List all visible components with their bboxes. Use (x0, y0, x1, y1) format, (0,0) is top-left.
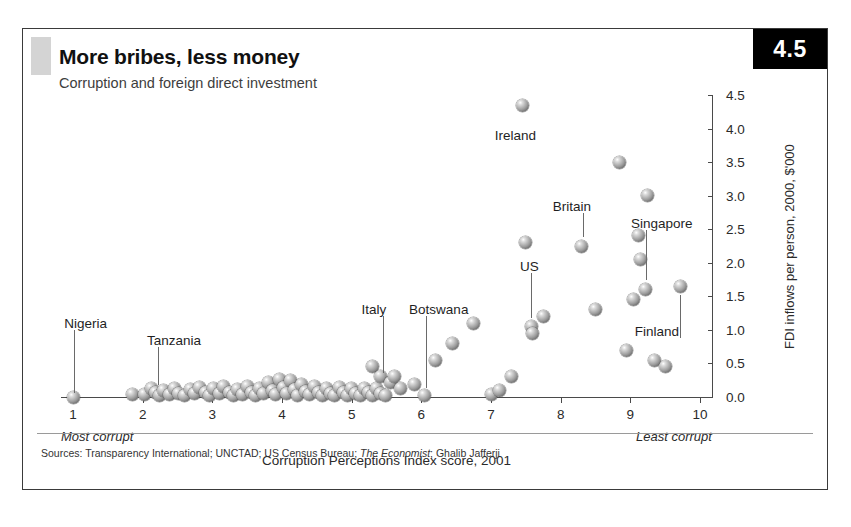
data-point (418, 389, 431, 402)
footer-divider (37, 433, 813, 434)
x-tick-label-8: 8 (557, 407, 565, 422)
sources-prefix: Sources: Transparency International; UNC… (41, 447, 360, 459)
x-tick-9 (630, 398, 631, 403)
annotation-tanzania: Tanzania (147, 333, 201, 348)
y-tick-label-3.5: 3.5 (726, 155, 745, 170)
data-point (379, 389, 392, 402)
y-tick-label-2.0: 2.0 (726, 255, 745, 270)
data-point (659, 360, 672, 373)
annotation-leader-tanzania (158, 347, 159, 385)
y-tick-2.5 (708, 229, 713, 230)
data-point (589, 303, 602, 316)
x-tick-label-2: 2 (139, 407, 147, 422)
annotation-leader-singapore (646, 230, 647, 280)
data-point (526, 327, 539, 340)
annotation-leader-botswana (426, 316, 427, 388)
y-tick-label-3.0: 3.0 (726, 188, 745, 203)
y-tick-3.0 (708, 196, 713, 197)
data-point (408, 378, 421, 391)
y-axis-title: FDI inflows per person, 2000, $'000 (782, 144, 797, 349)
x-tick-label-6: 6 (418, 407, 426, 422)
y-tick-0.5 (708, 363, 713, 364)
annotation-italy: Italy (362, 302, 387, 317)
data-point (674, 280, 687, 293)
x-tick-label-9: 9 (627, 407, 635, 422)
data-point (519, 236, 532, 249)
y-axis-line (712, 95, 713, 397)
annotation-leader-italy (383, 316, 384, 373)
y-tick-1.5 (708, 296, 713, 297)
x-axis-note-most-corrupt: Most corrupt (61, 429, 133, 444)
data-point (493, 384, 506, 397)
y-tick-label-4.5: 4.5 (726, 88, 745, 103)
sources-note: Sources: Transparency International; UNC… (41, 447, 500, 459)
data-point (505, 370, 518, 383)
annotation-finland: Finland (635, 324, 679, 339)
y-tick-label-0.0: 0.0 (726, 390, 745, 405)
x-axis-note-least-corrupt: Least corrupt (636, 429, 712, 444)
y-tick-1.0 (708, 330, 713, 331)
x-tick-label-4: 4 (278, 407, 286, 422)
y-tick-0.0 (708, 397, 713, 398)
y-tick-label-1.0: 1.0 (726, 322, 745, 337)
x-tick-10 (700, 398, 701, 403)
x-tick-label-7: 7 (487, 407, 495, 422)
annotation-us: US (520, 259, 539, 274)
scatter-plot-area: 123456789100.00.51.01.52.02.53.03.54.04.… (23, 29, 827, 489)
data-point (627, 293, 640, 306)
annotation-britain: Britain (553, 199, 591, 214)
data-point (632, 229, 645, 242)
data-point (620, 344, 633, 357)
x-tick-label-3: 3 (209, 407, 217, 422)
annotation-leader-britain (583, 213, 584, 238)
data-point (394, 382, 407, 395)
data-point (429, 354, 442, 367)
y-tick-label-1.5: 1.5 (726, 289, 745, 304)
y-tick-2.0 (708, 263, 713, 264)
y-tick-4.0 (708, 129, 713, 130)
annotation-botswana: Botswana (409, 302, 468, 317)
annotation-leader-finland (680, 295, 681, 338)
data-point (446, 337, 459, 350)
data-point (641, 189, 654, 202)
data-point (639, 283, 652, 296)
y-tick-label-4.0: 4.0 (726, 121, 745, 136)
data-point (537, 310, 550, 323)
annotation-leader-nigeria (74, 330, 75, 393)
annotation-singapore: Singapore (631, 216, 693, 231)
sources-suffix: ; Ghalib Jafferji (430, 447, 500, 459)
y-tick-3.5 (708, 162, 713, 163)
figure-panel: 4.5 More bribes, less money Corruption a… (22, 28, 828, 490)
annotation-leader-us (531, 273, 532, 318)
data-point (388, 370, 401, 383)
data-point (613, 156, 626, 169)
x-tick-8 (561, 398, 562, 403)
data-point (67, 391, 80, 404)
y-tick-label-2.5: 2.5 (726, 222, 745, 237)
x-tick-label-10: 10 (692, 407, 707, 422)
x-tick-label-1: 1 (69, 407, 77, 422)
x-tick-label-5: 5 (348, 407, 356, 422)
data-point (516, 99, 529, 112)
data-point (575, 240, 588, 253)
annotation-nigeria: Nigeria (64, 316, 107, 331)
data-point (467, 317, 480, 330)
y-tick-4.5 (708, 95, 713, 96)
sources-italic: The Economist (360, 447, 430, 459)
annotation-ireland: Ireland (495, 128, 536, 143)
y-tick-label-0.5: 0.5 (726, 356, 745, 371)
data-point (126, 388, 139, 401)
